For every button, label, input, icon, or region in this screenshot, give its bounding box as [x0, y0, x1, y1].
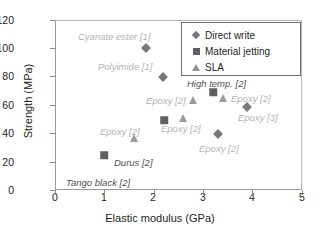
annotation-epoxy-2-sla-c: Epoxy [2]	[161, 123, 201, 134]
diamond-marker-icon	[189, 32, 203, 38]
x-tickmark-2	[154, 190, 155, 195]
x-axis-title: Elastic modulus (GPa)	[0, 212, 320, 224]
y-tick-label-60: 60	[0, 100, 14, 110]
legend-item-direct-write[interactable]: Direct write	[189, 27, 300, 43]
chart-legend: Direct write Material jetting SLA	[181, 22, 301, 76]
legend-label-direct-write: Direct write	[205, 30, 255, 41]
legend-label-material-jetting: Material jetting	[205, 46, 270, 57]
annotation-epoxy-2-sla-d: Epoxy [2]	[100, 126, 140, 137]
legend-item-material-jetting[interactable]: Material jetting	[189, 43, 300, 59]
annotation-epoxy-2-direct-write: Epoxy [2]	[199, 143, 239, 154]
annotation-polyimide: Polyimide [1]	[98, 61, 152, 72]
x-tickmark-3	[203, 190, 204, 195]
y-tick-label-120: 120	[0, 15, 14, 25]
data-point-high-temp[interactable]	[209, 88, 217, 96]
annotation-epoxy-2-sla-b: Epoxy [2]	[231, 93, 271, 104]
annotation-high-temp: High temp. [2]	[187, 78, 246, 89]
annotation-durus: Durus [2]	[114, 157, 153, 168]
data-point-epoxy-2-sla-a[interactable]	[189, 96, 197, 104]
annotation-cyanate-ester: Cyanate ester [1]	[78, 31, 150, 42]
y-tick-label-20: 20	[0, 157, 14, 167]
y-axis-title: Strength (MPa)	[22, 16, 34, 186]
y-tick-label-100: 100	[0, 43, 14, 53]
x-tickmark-5	[302, 190, 303, 195]
data-point-epoxy-2-sla-b[interactable]	[219, 94, 227, 102]
x-tickmark-1	[104, 190, 105, 195]
annotation-epoxy-3: Epoxy [3]	[238, 112, 278, 123]
x-tickmark-4	[252, 190, 253, 195]
legend-label-sla: SLA	[205, 62, 224, 73]
data-point-epoxy-2-sla-c[interactable]	[179, 114, 187, 122]
y-tick-label-40: 40	[0, 128, 14, 138]
data-point-durus[interactable]	[100, 151, 108, 159]
y-tick-label-80: 80	[0, 71, 14, 81]
legend-item-sla[interactable]: SLA	[189, 59, 300, 75]
scatter-chart-figure: Strength (MPa) 120 100 80 60 40 20 0 0 1…	[0, 0, 320, 235]
triangle-marker-icon	[189, 64, 203, 71]
x-tick-label-2: 2	[138, 192, 168, 203]
square-marker-icon	[189, 48, 203, 55]
y-tick-label-0: 0	[0, 185, 14, 195]
annotation-epoxy-2-sla-a: Epoxy [2]	[146, 95, 186, 106]
annotation-tango-black: Tango black [2]	[66, 177, 130, 188]
x-tickmark-0	[55, 190, 56, 195]
